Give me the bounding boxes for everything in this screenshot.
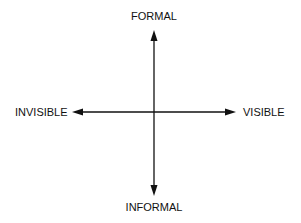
arrow-up-icon xyxy=(151,30,158,41)
axis-label-invisible: INVISIBLE xyxy=(15,106,68,118)
axis-label-formal: FORMAL xyxy=(131,10,177,22)
vertical-axis xyxy=(151,30,158,196)
axis-label-visible: VISIBLE xyxy=(243,106,285,118)
arrow-left-icon xyxy=(72,109,83,116)
arrow-right-icon xyxy=(225,109,236,116)
arrow-down-icon xyxy=(151,185,158,196)
axis-label-informal: INFORMAL xyxy=(126,201,183,213)
